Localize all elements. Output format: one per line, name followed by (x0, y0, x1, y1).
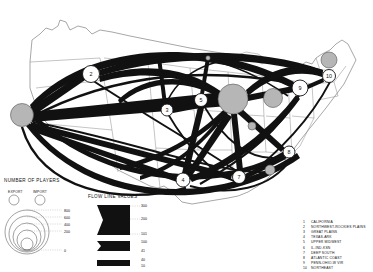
region-key-name: ATLANTIC COAST (311, 256, 342, 260)
region-key-number: 4 (303, 235, 305, 239)
region-key-name: DEEP SOUTH (311, 251, 335, 255)
region-key-name: UPPER MIDWEST (311, 240, 342, 244)
region-key-name: NORTHWEST-ROCKIES PLAINS (311, 225, 366, 229)
region-key-number: 6 (303, 246, 305, 250)
region-key-number: 10 (303, 266, 307, 270)
region-key-name: TEXAS-ARK (311, 235, 332, 239)
region-key-number: 8 (303, 256, 305, 260)
region-key-name: CALIFORNIA (311, 220, 333, 224)
region-key-number: 3 (303, 230, 305, 234)
region-key-number: 9 (303, 261, 305, 265)
region-key-name: GREAT PLAINS (311, 230, 338, 234)
region-key-name: IL-IND-KSN (311, 246, 331, 250)
region-key-name: PENN-OHIO-W VIR (311, 261, 344, 265)
region-key-list: 1CALIFORNIA2NORTHWEST-ROCKIES PLAINS3GRE… (0, 0, 373, 272)
region-key-number: 2 (303, 225, 305, 229)
flow-map-figure: 234578910 NUMBER OF PLAYERS EXPORT IMPOR… (0, 0, 373, 272)
region-key-name: NORTHEAST (311, 266, 333, 270)
region-key-number: 7 (303, 251, 305, 255)
region-key-number: 5 (303, 240, 305, 244)
region-key-number: 1 (303, 220, 305, 224)
